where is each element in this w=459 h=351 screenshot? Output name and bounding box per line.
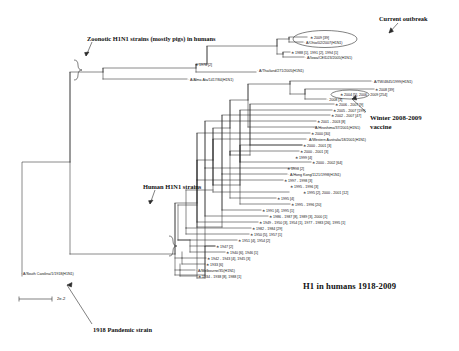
tree-tip-label: ∗ 1991 [4], 1995 [1] bbox=[262, 209, 294, 213]
tree-tip-label: ∗ 2006 - 2007 [9] bbox=[335, 103, 363, 107]
tree-tip-label: ∗ 2002 - 2007 [47] bbox=[331, 114, 361, 118]
tree-tip-label: ∗ 2000 - 2002 [64] bbox=[312, 161, 342, 165]
tree-tip-label: ∗ 2000 - 2001 [3] bbox=[303, 144, 331, 148]
tree-tip-label: · A/Hiroshima/37/2001(H1N1) bbox=[313, 126, 360, 130]
tree-tip-label: ∗ 2004 [5], 2006 - 2009 [254] bbox=[340, 93, 387, 97]
tree-tip-label: ∗ 1995 [4] bbox=[277, 197, 294, 201]
annotation-winter-vaccine-line1: Winter 2008-2009 bbox=[370, 114, 422, 121]
tree-tip-label: · A/South Carolina/1/1918(H1N1) bbox=[21, 272, 74, 276]
tree-tip-label: · A/Melbourne/35(H1N1) bbox=[196, 269, 235, 273]
tree-tip-label: ∗ 1995 - 1996 [3] bbox=[290, 185, 318, 189]
brace-human bbox=[169, 236, 177, 256]
tree-tip-label: · A/TW/4845/1999(H1N1) bbox=[372, 80, 413, 84]
tree-tip-label: ∗ 2009 [39] bbox=[310, 36, 329, 40]
phylogenetic-tree-figure: ∗ 2009 [39]· A/Ohio/02/2007(H1N1)∗ 1988 … bbox=[0, 0, 459, 351]
tree-tip-label: · A/Hong Kong/1121/1998(H1N1) bbox=[288, 173, 341, 177]
tree-tip-label: ∗ 1982 - 1984 [29] bbox=[252, 227, 282, 231]
tree-tip-label: · A/Ohio/02/2007(H1N1) bbox=[304, 41, 343, 45]
tree-tip-label: · A/Thailand/271/2005(H1N1) bbox=[257, 69, 304, 73]
tree-tip-label: · A/Alma Ata/1417/84(H1N1) bbox=[188, 78, 233, 82]
annotation-winter-vaccine-line2: vaccine bbox=[370, 123, 392, 130]
tree-tip-label: ∗ 2000 [30] bbox=[311, 132, 330, 136]
tree-tip-label: ∗ 1995 [2], 2000 - 2001 [12] bbox=[303, 191, 348, 195]
tree-tip-label: ∗ 2005 - 2007 [199] bbox=[333, 109, 365, 113]
scale-bar bbox=[19, 297, 52, 302]
scale-bar-label: 2e-2 bbox=[57, 296, 65, 301]
tree-tip-label: · A/Western Australia/18/2001(H1N1) bbox=[307, 138, 366, 142]
tree-tip-label: ∗ 1940 [6], 1946 [1] bbox=[226, 251, 258, 255]
tree-tip-label: ∗ 1998 [2] bbox=[287, 167, 304, 171]
tree-graphic bbox=[0, 0, 459, 351]
brace-zoonotic bbox=[74, 60, 82, 80]
tree-tip-label: ∗ 1986 - 1987 [8], 1989 [3], 2000 [1] bbox=[269, 215, 327, 219]
figure-title: H1 in humans 1918-2009 bbox=[303, 281, 396, 291]
annotation-1918-pandemic: 1918 Pandemic strain bbox=[93, 326, 152, 333]
tree-tip-label: ∗ 2000 - 2001 [3] bbox=[300, 150, 328, 154]
tree-tip-label: ∗ 1950 [5], 1957 [1] bbox=[250, 233, 282, 237]
tree-tip-label: ∗ 1934 - 1938 [8], 1988 [1] bbox=[198, 275, 241, 279]
tree-tip-label: ∗ 1988 [1], 1991 [2], 1994 [1] bbox=[291, 51, 338, 55]
tree-tip-label: ∗ 2001 - 2003 [8] bbox=[317, 120, 345, 124]
tree-tip-label: ∗ 1999 [4] bbox=[295, 156, 312, 160]
tree-branches bbox=[22, 37, 374, 278]
tree-tip-label: ∗ 1949 - 1950 [3], 1954 [1], 1977 - 1983… bbox=[259, 221, 345, 225]
tree-tip-label: · A/Iowa/CEID23/2005(H1N1) bbox=[305, 56, 352, 60]
annotation-current-outbreak: Current outbreak bbox=[379, 15, 428, 22]
tree-tip-label: ∗ 1997 - 1998 [3] bbox=[284, 179, 312, 183]
tree-tip-label: ∗ 1933 [6] bbox=[206, 263, 223, 267]
annotation-zoonotic: Zoonotic H1N1 strains (mostly pigs) in h… bbox=[87, 35, 216, 42]
tree-tip-label: ∗ 1951 [4], 1954 [2] bbox=[238, 239, 270, 243]
tree-tip-label: ∗ 1976 [2] bbox=[195, 63, 212, 67]
tree-tip-label: ∗ 1942 - 1943 [4], 1945 [3] bbox=[207, 257, 250, 261]
tree-tip-label: ∗ 2008 [39] bbox=[375, 88, 394, 92]
tree-tip-label: ∗ 1947 [2] bbox=[216, 245, 233, 249]
tree-tip-label: · 2008 [3] bbox=[327, 98, 342, 102]
tree-tip-label: ∗ 1995 - 1996 [20] bbox=[291, 203, 321, 207]
annotation-human-strains: Human H1N1 strains bbox=[143, 183, 201, 190]
